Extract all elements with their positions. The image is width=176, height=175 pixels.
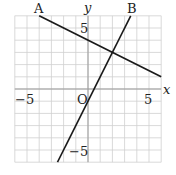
- coordinate-graph: A B y x O −5 5 5 −5: [0, 0, 176, 175]
- origin-label: O: [77, 92, 88, 107]
- x-tick-label-neg5: −5: [15, 92, 34, 107]
- y-axis-label: y: [83, 0, 92, 15]
- x-axis-label: x: [163, 82, 171, 97]
- axes: [15, 16, 161, 162]
- line-b-label: B: [127, 1, 137, 16]
- y-tick-label-pos5: 5: [80, 21, 88, 36]
- y-tick-label-neg5: −5: [69, 144, 88, 159]
- x-tick-label-pos5: 5: [144, 92, 152, 107]
- line-a-label: A: [33, 1, 44, 16]
